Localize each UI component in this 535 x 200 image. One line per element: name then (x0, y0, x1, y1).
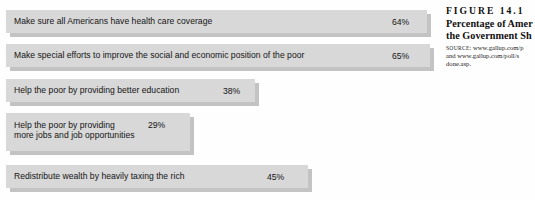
bar-row: Help the poor by providing more jobs and… (6, 113, 190, 151)
bar-inner: Redistribute wealth by heavily taxing th… (6, 165, 308, 188)
bar-label: Help the poor by providing better educat… (14, 85, 179, 95)
figure-caption: FIGURE 14.1 Percentage of Amer the Gover… (446, 5, 535, 68)
bar-value-label: 64% (392, 17, 409, 27)
bar-value-label: 38% (223, 86, 240, 96)
bar-row: Make sure all Americans have health care… (6, 10, 427, 33)
figure-page: Make sure all Americans have health care… (0, 0, 535, 200)
bar: Redistribute wealth by heavily taxing th… (6, 165, 308, 188)
figure-title: Percentage of Amer the Government Sh (446, 18, 535, 41)
bar-value-label: 45% (267, 172, 284, 182)
bar-inner: Make special efforts to improve the soci… (6, 44, 430, 67)
bar-row: Redistribute wealth by heavily taxing th… (6, 165, 308, 188)
bar-row: Help the poor by providing better educat… (6, 79, 255, 102)
bar: Help the poor by providing more jobs and… (6, 113, 190, 151)
figure-source: SOURCE: www.gallup.com/p and www.gallup.… (446, 44, 535, 68)
bar: Make sure all Americans have health care… (6, 10, 427, 33)
bar-label: Redistribute wealth by heavily taxing th… (14, 171, 185, 181)
bar-row: Make special efforts to improve the soci… (6, 44, 430, 67)
bar-value-label: 29% (148, 120, 165, 130)
bar-label: Make special efforts to improve the soci… (14, 50, 304, 60)
bar-value-label: 65% (392, 51, 409, 61)
bar: Help the poor by providing better educat… (6, 79, 255, 102)
bar: Make special efforts to improve the soci… (6, 44, 430, 67)
bar-inner: Make sure all Americans have health care… (6, 10, 427, 33)
bar-inner: Help the poor by providing more jobs and… (6, 113, 190, 151)
bar-inner: Help the poor by providing better educat… (6, 79, 255, 102)
figure-number: FIGURE 14.1 (446, 5, 535, 17)
bar-chart: Make sure all Americans have health care… (0, 0, 440, 200)
bar-label: Make sure all Americans have health care… (14, 16, 212, 26)
bar-label: Help the poor by providing more jobs and… (14, 120, 135, 141)
source-label: SOURCE: (446, 45, 471, 51)
